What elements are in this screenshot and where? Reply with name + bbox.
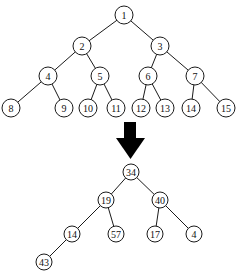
top-tree-node: 13 bbox=[156, 99, 174, 117]
node-label: 40 bbox=[155, 195, 165, 206]
top-tree-node: 9 bbox=[55, 99, 73, 117]
node-label: 1 bbox=[122, 10, 127, 21]
node-label: 8 bbox=[9, 103, 14, 114]
top-tree-nodes: 123456789101112131415 bbox=[2, 6, 235, 117]
node-label: 10 bbox=[83, 103, 93, 114]
bottom-tree-node: 14 bbox=[64, 226, 80, 242]
node-label: 4 bbox=[46, 71, 51, 82]
bottom-tree-edges bbox=[44, 172, 194, 262]
node-label: 2 bbox=[80, 41, 85, 52]
bottom-tree-node: 4 bbox=[186, 226, 202, 242]
top-tree-node: 10 bbox=[79, 99, 97, 117]
tree-diagram: 123456789101112131415 341940145717443 bbox=[0, 0, 238, 276]
node-label: 17 bbox=[150, 229, 160, 240]
top-tree-node: 11 bbox=[107, 99, 125, 117]
node-label: 9 bbox=[62, 103, 67, 114]
top-tree-node: 6 bbox=[139, 67, 157, 85]
top-tree-node: 14 bbox=[182, 99, 200, 117]
bottom-tree-node: 57 bbox=[108, 226, 124, 242]
node-label: 43 bbox=[39, 257, 49, 268]
node-label: 34 bbox=[126, 167, 136, 178]
top-tree-node: 15 bbox=[217, 99, 235, 117]
node-label: 19 bbox=[101, 195, 111, 206]
node-label: 11 bbox=[111, 103, 121, 114]
node-label: 15 bbox=[221, 103, 231, 114]
bottom-tree-node: 43 bbox=[36, 254, 52, 270]
node-label: 7 bbox=[193, 71, 198, 82]
node-label: 14 bbox=[186, 103, 196, 114]
top-tree-node: 4 bbox=[39, 67, 57, 85]
node-label: 14 bbox=[67, 229, 77, 240]
node-label: 4 bbox=[192, 229, 197, 240]
node-label: 12 bbox=[136, 103, 146, 114]
top-tree-node: 8 bbox=[2, 99, 20, 117]
node-label: 57 bbox=[111, 229, 121, 240]
node-label: 6 bbox=[146, 71, 151, 82]
top-tree-node: 5 bbox=[91, 67, 109, 85]
node-label: 5 bbox=[98, 71, 103, 82]
top-tree-edges bbox=[11, 15, 226, 108]
node-label: 13 bbox=[160, 103, 170, 114]
bottom-tree-node: 19 bbox=[98, 192, 114, 208]
bottom-tree-node: 17 bbox=[147, 226, 163, 242]
top-tree-node: 7 bbox=[186, 67, 204, 85]
top-tree-node: 2 bbox=[73, 37, 91, 55]
bottom-tree-node: 40 bbox=[152, 192, 168, 208]
top-tree-node: 12 bbox=[132, 99, 150, 117]
down-arrow-icon bbox=[116, 122, 145, 159]
bottom-tree-node: 34 bbox=[123, 164, 139, 180]
top-tree-node: 3 bbox=[151, 37, 169, 55]
node-label: 3 bbox=[158, 41, 163, 52]
top-tree-node: 1 bbox=[115, 6, 133, 24]
